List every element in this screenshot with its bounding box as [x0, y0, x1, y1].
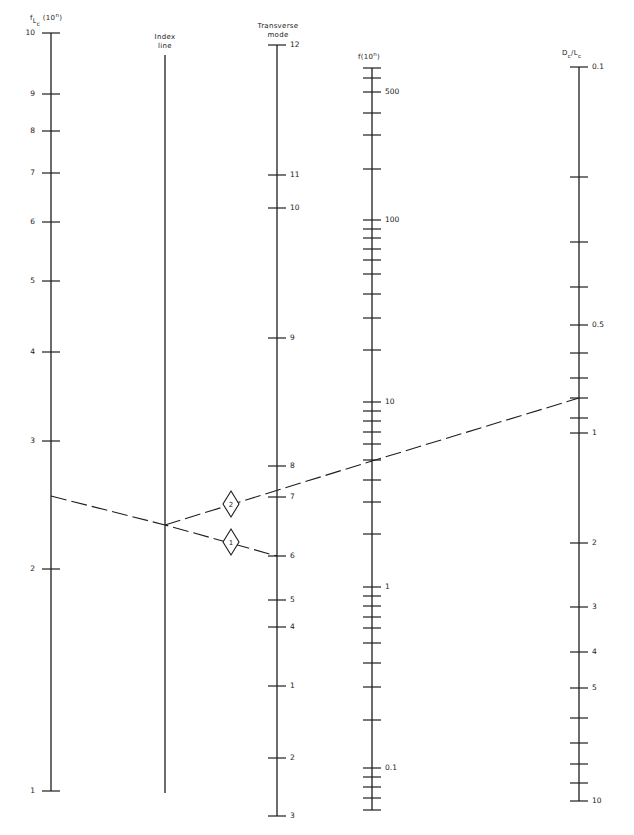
tick-label-transverse_mode: 3	[290, 811, 295, 820]
tick-label-f: 500	[385, 87, 399, 96]
tick-label-dc_lc: 5	[592, 683, 597, 692]
tick-label-f_lc: 5	[5, 276, 35, 285]
axes-layer	[42, 33, 588, 816]
tick-label-dc_lc: 0.5	[592, 320, 604, 329]
axis-dc_lc	[570, 67, 588, 801]
marker-2-icon: 2	[223, 491, 239, 517]
tick-label-transverse_mode: 6	[290, 551, 295, 560]
tick-label-transverse_mode: 7	[290, 492, 295, 501]
axis-title-dc-lc: Dc/Lc	[562, 49, 602, 58]
axis-f_lc	[42, 33, 60, 791]
tick-label-f_lc: 6	[5, 217, 35, 226]
f-close: )	[377, 53, 380, 61]
axis-title-index-line: Index line	[145, 33, 185, 51]
tick-label-dc_lc: 1	[592, 428, 597, 437]
tick-label-transverse_mode: 5	[290, 595, 295, 604]
dc-d: D	[562, 49, 568, 57]
index-line-title-2: line	[145, 42, 185, 51]
tick-label-transverse_mode: 1	[290, 681, 295, 690]
axis-title-f-lc: fLc (10n)	[30, 11, 78, 23]
tick-label-dc_lc: 10	[592, 796, 602, 805]
tick-label-transverse_mode: 9	[290, 333, 295, 342]
tick-label-transverse_mode: 2	[290, 753, 295, 762]
lc-sub: c	[578, 53, 581, 59]
tick-label-f_lc: 4	[5, 347, 35, 356]
tick-label-transverse_mode: 12	[290, 40, 300, 49]
tick-label-f_lc: 2	[5, 564, 35, 573]
axis-title-f: f(10n)	[358, 50, 398, 62]
tick-label-f: 1	[385, 582, 390, 591]
tick-label-dc_lc: 2	[592, 538, 597, 547]
tick-label-f: 10	[385, 397, 395, 406]
tick-label-f_lc: 1	[5, 786, 35, 795]
isopleth-layer	[51, 398, 579, 556]
transverse-mode-title-2: mode	[248, 31, 308, 40]
tick-label-f_lc: 9	[5, 89, 35, 98]
axis-transverse_mode	[268, 45, 286, 816]
axis-title-transverse-mode: Transverse mode	[248, 22, 308, 40]
f-lc-suffix: (10	[43, 14, 56, 22]
marker-1-label: 1	[229, 539, 233, 547]
tick-label-transverse_mode: 8	[290, 461, 295, 470]
f-main: f(10	[358, 53, 373, 61]
tick-label-transverse_mode: 10	[290, 203, 300, 212]
axis-f	[363, 68, 381, 810]
transverse-mode-title-1: Transverse	[248, 22, 308, 31]
tick-label-f: 100	[385, 215, 399, 224]
tick-label-f_lc: 3	[5, 436, 35, 445]
index-line-title-1: Index	[145, 33, 185, 42]
tick-label-dc_lc: 0.1	[592, 62, 604, 71]
tick-label-f_lc: 7	[5, 168, 35, 177]
tick-label-dc_lc: 4	[592, 647, 597, 656]
tick-label-f: 0.1	[385, 763, 397, 772]
dc-sub: c	[568, 53, 571, 59]
tick-label-transverse_mode: 4	[290, 622, 295, 631]
isopleth-1	[51, 496, 277, 556]
tick-label-dc_lc: 3	[592, 602, 597, 611]
marker-layer: 12	[223, 491, 239, 555]
f-lc-sub2: c	[37, 20, 41, 27]
tick-label-f_lc: 10	[5, 28, 35, 37]
tick-label-f_lc: 8	[5, 126, 35, 135]
tick-label-transverse_mode: 11	[290, 170, 300, 179]
f-lc-close: )	[59, 14, 62, 22]
nomogram-canvas: 12	[0, 0, 634, 835]
marker-2-label: 2	[229, 501, 233, 509]
marker-1-icon: 1	[223, 529, 239, 555]
